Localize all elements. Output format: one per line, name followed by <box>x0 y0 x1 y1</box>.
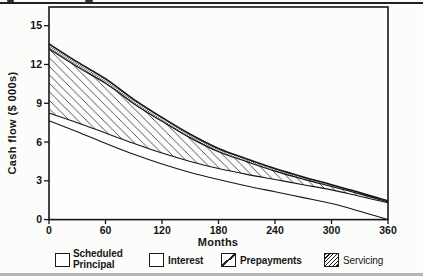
legend-swatch-scheduled-principal <box>55 253 70 267</box>
legend-swatch-interest <box>149 253 164 267</box>
figure-page: 03691215060120180240300360 Cash flow ($ … <box>0 0 423 280</box>
svg-text:6: 6 <box>36 136 42 148</box>
y-axis-title: Cash flow ($ 000s) <box>6 56 20 190</box>
legend-swatch-prepayments <box>221 253 236 267</box>
bottom-rule <box>0 273 423 276</box>
x-axis-title: Months <box>178 236 258 248</box>
svg-text:120: 120 <box>153 224 171 236</box>
svg-text:15: 15 <box>30 19 42 31</box>
svg-text:9: 9 <box>36 97 42 109</box>
plot-areas <box>49 44 388 220</box>
svg-text:240: 240 <box>266 224 284 236</box>
svg-text:0: 0 <box>46 224 52 236</box>
svg-text:60: 60 <box>100 224 112 236</box>
cashflow-chart: 03691215060120180240300360 <box>0 0 423 252</box>
legend-label-interest: Interest <box>168 256 203 267</box>
svg-text:3: 3 <box>36 174 42 186</box>
legend-label-servicing: Servicing <box>343 256 383 267</box>
svg-text:360: 360 <box>379 224 397 236</box>
svg-text:300: 300 <box>323 224 341 236</box>
svg-text:0: 0 <box>36 213 42 225</box>
svg-text:180: 180 <box>210 224 228 236</box>
legend-label-prepayments: Prepayments <box>240 256 302 267</box>
legend-swatch-servicing <box>324 253 339 267</box>
svg-text:12: 12 <box>30 58 42 70</box>
legend-label-scheduled-principal: Scheduled Principal <box>73 249 137 270</box>
